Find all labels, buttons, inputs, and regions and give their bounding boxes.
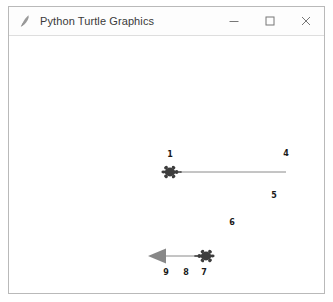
minimize-button[interactable] — [216, 7, 252, 35]
window-title: Python Turtle Graphics — [40, 15, 216, 27]
turtle-graphics-window: Python Turtle Graphics 1456987 — [8, 6, 325, 294]
maximize-button[interactable] — [252, 7, 288, 35]
label-9: 9 — [163, 269, 169, 277]
turtle-arrow-lower-left-icon — [147, 248, 169, 264]
window-titlebar[interactable]: Python Turtle Graphics — [9, 7, 324, 36]
label-4: 4 — [283, 150, 289, 158]
label-1: 1 — [167, 151, 173, 159]
close-button[interactable] — [288, 7, 324, 35]
turtle-upper-icon — [161, 164, 183, 180]
python-turtle-feather-icon — [17, 13, 33, 29]
label-5: 5 — [271, 192, 277, 200]
label-7: 7 — [201, 269, 207, 277]
label-6: 6 — [229, 219, 235, 227]
turtle-canvas[interactable]: 1456987 — [9, 36, 324, 293]
turtle-lower-icon — [193, 248, 215, 264]
label-8: 8 — [183, 269, 189, 277]
